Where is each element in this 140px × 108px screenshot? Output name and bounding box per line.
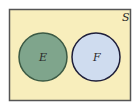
set-e-label: E: [38, 51, 47, 64]
venn-diagram: S E F: [0, 0, 140, 108]
set-f-label: F: [92, 51, 101, 64]
universe-label: S: [122, 11, 130, 24]
